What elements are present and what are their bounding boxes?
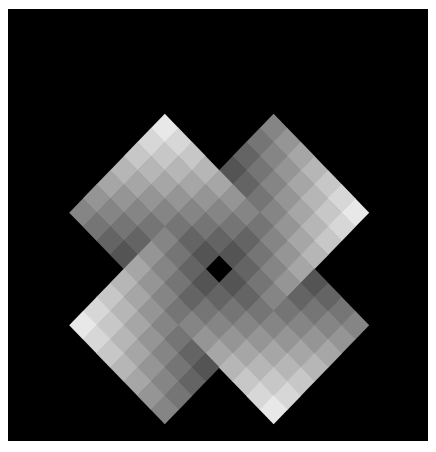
pinwheel-artwork: [0, 0, 436, 452]
